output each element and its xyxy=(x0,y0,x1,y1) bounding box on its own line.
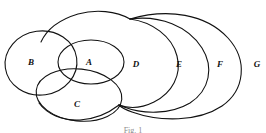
region-label-e: E xyxy=(176,60,182,69)
figure-container: B A C D E F G Fig. 1 xyxy=(0,0,266,133)
region-c-ellipse xyxy=(34,65,125,126)
figure-caption: Fig. 1 xyxy=(0,127,266,133)
region-label-a: A xyxy=(86,58,92,67)
region-label-f: F xyxy=(217,60,223,69)
region-b-ellipse xyxy=(1,26,81,99)
region-label-g: G xyxy=(254,60,261,69)
region-d-inner-arc xyxy=(41,11,130,42)
region-label-c: C xyxy=(74,100,80,109)
region-label-d: D xyxy=(133,60,140,69)
region-label-b: B xyxy=(28,58,34,67)
region-d-outer-arc xyxy=(119,19,178,107)
